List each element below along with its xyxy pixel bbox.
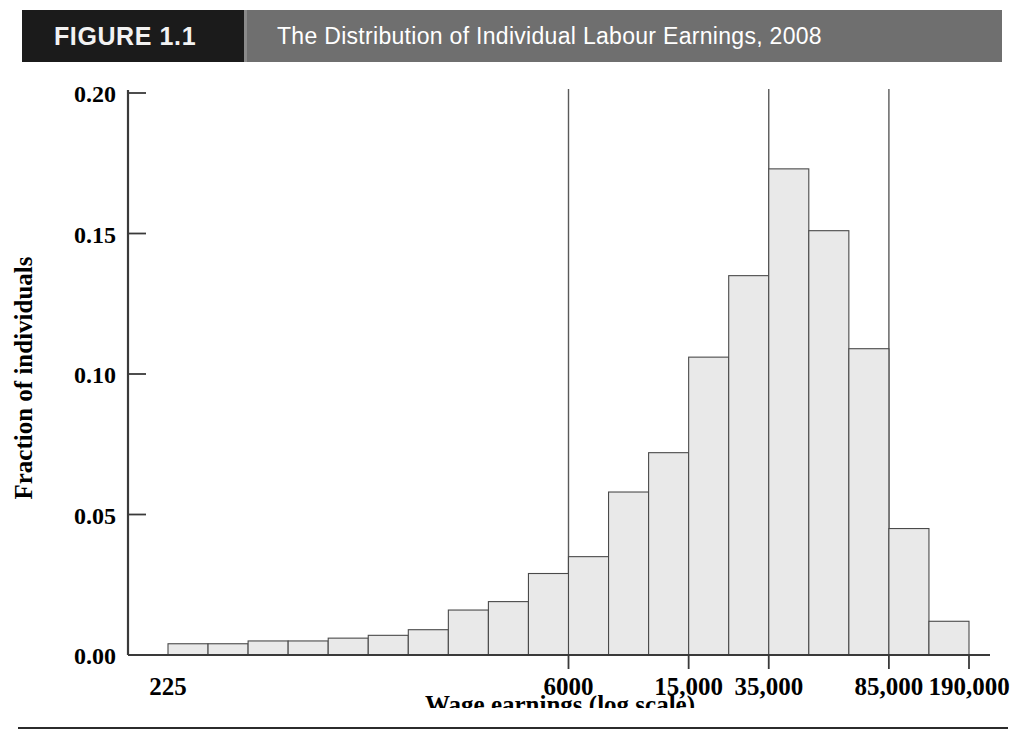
histogram-bar <box>809 231 849 655</box>
histogram-bar <box>729 276 769 655</box>
histogram-bar <box>849 349 889 655</box>
histogram-bar <box>569 557 609 655</box>
histogram-bar <box>168 644 208 655</box>
histogram-bar <box>368 635 408 655</box>
figure-title-label: The Distribution of Individual Labour Ea… <box>277 23 822 50</box>
y-axis-tick-label: 0.20 <box>74 81 116 107</box>
histogram-bar <box>408 630 448 655</box>
histogram-bar <box>929 621 969 655</box>
x-axis-ticks-group <box>569 655 970 669</box>
y-axis-tick-label: 0.10 <box>74 362 116 388</box>
x-axis-title: Wage earnings (log scale) <box>425 691 695 708</box>
figure-number-box: FIGURE 1.1 <box>22 10 244 62</box>
histogram-bar <box>248 641 288 655</box>
x-axis-tick-label: 190,000 <box>928 673 1009 700</box>
histogram-bar <box>528 574 568 655</box>
histogram-bar <box>649 453 689 655</box>
histogram-plot: 0.000.050.100.150.20 225600015,00035,000… <box>0 68 1024 708</box>
histogram-bar <box>448 610 488 655</box>
y-axis-tick-label: 0.05 <box>74 503 116 529</box>
figure-header: FIGURE 1.1 The Distribution of Individua… <box>22 10 1002 62</box>
y-axis-tick-label: 0.00 <box>74 643 116 669</box>
figure-title-box: The Distribution of Individual Labour Ea… <box>244 10 1002 62</box>
figure-number-label: FIGURE 1.1 <box>54 22 196 51</box>
histogram-bar <box>288 641 328 655</box>
histogram-bar <box>889 529 929 655</box>
histogram-bar <box>208 644 248 655</box>
x-axis-tick-label: 225 <box>149 673 187 700</box>
histogram-bar <box>328 638 368 655</box>
x-axis-tick-label: 35,000 <box>734 673 803 700</box>
y-axis-tick-labels-group: 0.000.050.100.150.20 <box>74 81 116 669</box>
histogram-bar <box>689 357 729 655</box>
histogram-bar <box>769 169 809 655</box>
chart-region: 0.000.050.100.150.20 225600015,00035,000… <box>0 68 1024 708</box>
histogram-bar <box>488 602 528 655</box>
y-axis-tick-label: 0.15 <box>74 222 116 248</box>
bottom-divider-rule <box>18 727 1008 729</box>
y-axis-title: Fraction of individuals <box>10 256 37 499</box>
x-axis-tick-label: 85,000 <box>855 673 924 700</box>
histogram-bar <box>609 492 649 655</box>
y-axis-ticks-group <box>128 93 146 655</box>
